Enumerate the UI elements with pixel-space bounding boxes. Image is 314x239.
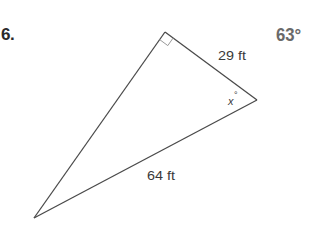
triangle-figure: 29 ft 64 ft x ° [0, 0, 314, 239]
angle-degree-symbol: ° [234, 90, 238, 100]
right-angle-marker-icon [160, 38, 173, 46]
side-leg-29ft [165, 32, 257, 100]
leg-length-label: 29 ft [218, 48, 246, 63]
side-leg-left [34, 32, 165, 218]
hypotenuse-length-label: 64 ft [147, 168, 175, 183]
side-hypotenuse-64ft [34, 100, 257, 218]
angle-variable-label: x [227, 95, 234, 107]
